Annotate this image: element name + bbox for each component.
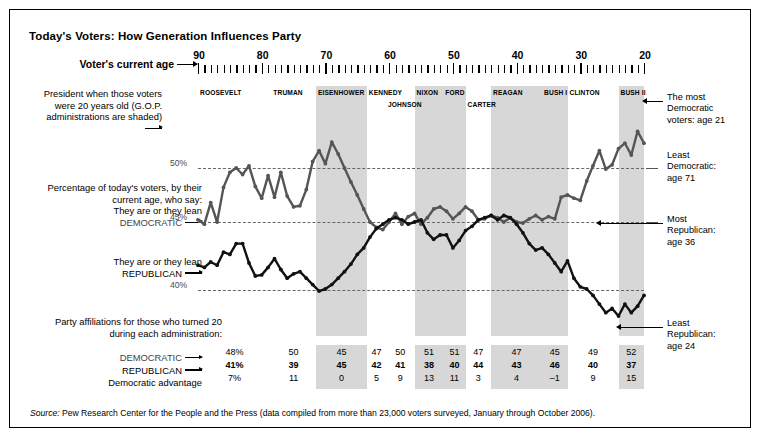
table-cell: 45 xyxy=(325,360,357,370)
axis-tick xyxy=(472,65,473,73)
axis-tick xyxy=(491,65,492,73)
table-cell: 15 xyxy=(615,373,647,383)
axis-tick xyxy=(517,63,518,74)
axis-tick-label: 40 xyxy=(508,49,528,61)
table-cell: 52 xyxy=(615,347,647,357)
axis-tick-label: 20 xyxy=(635,49,655,61)
axis-tick-label: 80 xyxy=(253,49,273,61)
row-label-republican: REPUBLICAN xyxy=(22,365,202,378)
table-row-labels: DEMOCRATIC REPUBLICAN Democratic advanta… xyxy=(22,352,202,390)
gridline-label: 50% xyxy=(170,158,187,168)
source-note: Source: Pew Research Center for the Peop… xyxy=(30,408,595,418)
axis-tick xyxy=(523,65,524,73)
president-label: BUSH I xyxy=(544,89,567,96)
annotation-most-republican: MostRepublican:age 36 xyxy=(667,214,759,248)
axis-tick xyxy=(568,65,569,73)
axis-tick xyxy=(548,65,549,73)
president-caption: President when those voters were 20 year… xyxy=(42,88,162,134)
annotation-tick xyxy=(646,222,658,223)
axis-tick xyxy=(638,65,639,73)
president-label: KENNEDY xyxy=(369,89,402,96)
president-label: FORD xyxy=(445,89,464,96)
axis-tick xyxy=(332,65,333,73)
axis-tick-label: 30 xyxy=(571,49,591,61)
table-cell: 40 xyxy=(577,360,609,370)
president-label: TRUMAN xyxy=(273,89,302,96)
annotation-leader-line xyxy=(600,223,663,224)
table-cell: 45 xyxy=(325,347,357,357)
axis-tick xyxy=(306,65,307,73)
table-cell: 0 xyxy=(325,373,357,383)
table-cell: 49 xyxy=(577,347,609,357)
gop-band xyxy=(316,86,367,336)
annotation-arrowhead xyxy=(642,98,647,104)
table-cell: 48% xyxy=(219,347,251,357)
president-label: NIXON xyxy=(417,89,439,96)
axis-tick-label: 90 xyxy=(189,49,209,61)
axis-tick xyxy=(376,65,377,73)
axis-tick xyxy=(319,65,320,73)
table-cell: 41 xyxy=(384,360,416,370)
gop-band xyxy=(542,86,568,336)
axis-tick xyxy=(434,65,435,73)
president-label: JOHNSON xyxy=(388,101,422,108)
axis-tick xyxy=(357,65,358,73)
arrow-icon xyxy=(177,64,197,65)
axis-tick xyxy=(325,63,326,74)
republican-caption: They are or they lean REPUBLICAN xyxy=(27,256,202,279)
annotation-least-republican: LeastRepublican:age 24 xyxy=(667,318,759,352)
annotation-leader-line xyxy=(646,101,663,102)
axis-tick-label: 60 xyxy=(380,49,400,61)
axis-tick xyxy=(275,65,276,73)
axis-tick xyxy=(612,65,613,73)
party-affiliation-caption: Party affiliations for those who turned … xyxy=(27,316,222,339)
table-cell: 9 xyxy=(577,373,609,383)
axis-tick xyxy=(217,65,218,73)
gridline-label: 45% xyxy=(170,212,187,222)
axis-tick xyxy=(281,65,282,73)
axis-label-age: Voter's current age xyxy=(80,58,198,70)
axis-tick xyxy=(485,65,486,73)
president-label: CARTER xyxy=(468,101,496,108)
axis-tick xyxy=(536,65,537,73)
axis-tick xyxy=(268,65,269,73)
axis-tick xyxy=(383,65,384,73)
axis-tick xyxy=(599,65,600,73)
row-label-advantage: Democratic advantage xyxy=(22,377,202,390)
axis-tick-label: 70 xyxy=(316,49,336,61)
axis-tick xyxy=(351,65,352,73)
table-cell: 4 xyxy=(501,373,533,383)
axis-tick xyxy=(555,65,556,73)
axis-tick xyxy=(478,65,479,73)
table-cell: 44 xyxy=(462,360,494,370)
table-cell: 41% xyxy=(219,360,251,370)
axis-tick xyxy=(466,65,467,73)
table-cell: 47 xyxy=(501,347,533,357)
axis-tick xyxy=(243,65,244,73)
axis-tick xyxy=(529,65,530,73)
axis-tick xyxy=(447,65,448,73)
axis-tick xyxy=(402,65,403,73)
president-label: REAGAN xyxy=(493,89,522,96)
axis-tick xyxy=(625,65,626,73)
axis-tick xyxy=(198,63,199,74)
gridline-label: 40% xyxy=(170,280,187,290)
axis-tick xyxy=(224,65,225,73)
gop-band xyxy=(491,86,542,336)
axis-tick xyxy=(593,65,594,73)
axis-tick xyxy=(389,63,390,74)
annotation-least-democratic: LeastDemocratic:age 71 xyxy=(667,150,759,184)
axis-tick xyxy=(440,65,441,73)
table-cell: 39 xyxy=(278,360,310,370)
infographic-root: Today's Voters: How Generation Influence… xyxy=(0,0,762,439)
axis-tick xyxy=(300,65,301,73)
table-cell: 45 xyxy=(539,347,571,357)
axis-tick xyxy=(255,65,256,73)
axis-tick xyxy=(338,65,339,73)
table-cell: 7% xyxy=(219,373,251,383)
axis-tick xyxy=(587,65,588,73)
president-label: BUSH II xyxy=(621,89,646,96)
axis-tick xyxy=(574,65,575,73)
axis-tick xyxy=(364,65,365,73)
axis-tick xyxy=(262,63,263,74)
